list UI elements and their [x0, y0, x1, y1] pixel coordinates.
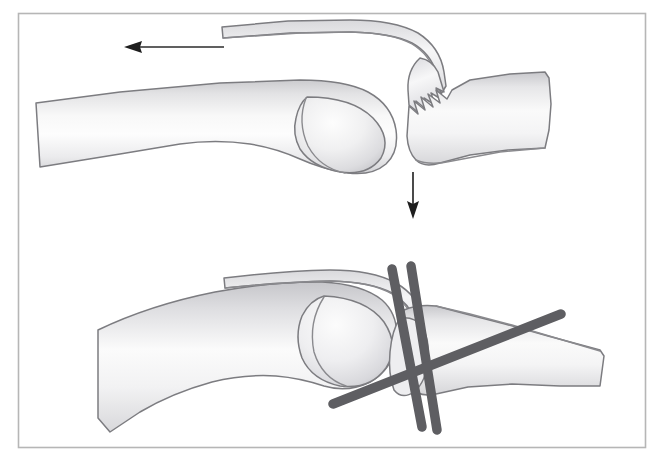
- volar-subluxation-arrow: [407, 172, 419, 219]
- figure-root: [0, 0, 665, 456]
- tendon-retraction-arrow: [124, 41, 224, 53]
- orthopedic-illustration: [0, 0, 665, 456]
- panel-fixation: [98, 266, 604, 432]
- panel-injury: [36, 20, 551, 219]
